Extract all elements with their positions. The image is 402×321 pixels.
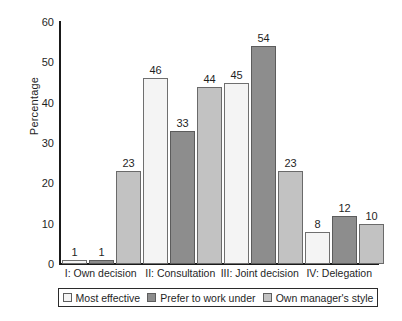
bar-groups: 112346334445542381210 <box>61 22 379 264</box>
bar <box>143 78 168 264</box>
legend-item[interactable]: Prefer to work under <box>147 292 255 304</box>
bar <box>197 87 222 264</box>
legend-item[interactable]: Own manager's style <box>263 292 374 304</box>
bar-slot: 46 <box>143 22 168 264</box>
bar <box>251 46 276 264</box>
legend-swatch-icon <box>147 293 156 302</box>
y-tick-label: 30 <box>26 137 54 149</box>
bar-slot: 23 <box>116 22 141 264</box>
bar <box>89 260 114 264</box>
legend-swatch-icon <box>263 293 272 302</box>
bar-slot: 54 <box>251 22 276 264</box>
bar-group: 455423 <box>223 22 304 264</box>
bar <box>359 224 384 264</box>
bar <box>116 171 141 264</box>
bar-group: 1123 <box>61 22 142 264</box>
bar-slot: 12 <box>332 22 357 264</box>
chart-legend: Most effectivePrefer to work underOwn ma… <box>58 288 378 307</box>
bar <box>332 216 357 264</box>
bar-value-label: 33 <box>176 117 188 129</box>
y-tick-label: 0 <box>26 258 54 270</box>
bar-slot: 1 <box>89 22 114 264</box>
bar-slot: 10 <box>359 22 384 264</box>
bar-slot: 23 <box>278 22 303 264</box>
bar <box>62 260 87 264</box>
y-tick-label: 50 <box>26 56 54 68</box>
bar-value-label: 1 <box>98 246 104 258</box>
bar-value-label: 54 <box>257 32 269 44</box>
legend-label: Most effective <box>76 292 141 304</box>
y-tick-label: 40 <box>26 97 54 109</box>
bar-value-label: 23 <box>122 157 134 169</box>
bar-value-label: 10 <box>365 210 377 222</box>
bar-chart: Percentage 6050403020100 112346334445542… <box>0 0 402 321</box>
y-tick-label: 10 <box>26 218 54 230</box>
legend-swatch-icon <box>63 293 72 302</box>
bar <box>170 131 195 264</box>
category-label: I: Own decision <box>61 267 141 279</box>
bar-value-label: 23 <box>284 157 296 169</box>
bar <box>278 171 303 264</box>
y-tick-label: 20 <box>26 177 54 189</box>
bar-value-label: 44 <box>203 73 215 85</box>
category-label: II: Consultation <box>141 267 221 279</box>
legend-label: Own manager's style <box>276 292 374 304</box>
category-label: III: Joint decision <box>220 267 300 279</box>
bar-value-label: 46 <box>149 64 161 76</box>
legend-label: Prefer to work under <box>160 292 255 304</box>
bar <box>305 232 330 264</box>
bar-value-label: 1 <box>71 246 77 258</box>
y-tick-label: 60 <box>26 16 54 28</box>
category-label: IV: Delegation <box>300 267 380 279</box>
bar-value-label: 45 <box>230 69 242 81</box>
bar-value-label: 12 <box>338 202 350 214</box>
y-axis-tick-labels: 6050403020100 <box>22 22 54 264</box>
bar-value-label: 8 <box>314 218 320 230</box>
bar-group: 81210 <box>304 22 385 264</box>
bar-group: 463344 <box>142 22 223 264</box>
bar-slot: 33 <box>170 22 195 264</box>
bar-slot: 45 <box>224 22 249 264</box>
bar-slot: 1 <box>62 22 87 264</box>
bar-slot: 44 <box>197 22 222 264</box>
legend-item[interactable]: Most effective <box>63 292 141 304</box>
bar <box>224 83 249 265</box>
bar-slot: 8 <box>305 22 330 264</box>
category-labels: I: Own decisionII: ConsultationIII: Join… <box>61 267 379 279</box>
